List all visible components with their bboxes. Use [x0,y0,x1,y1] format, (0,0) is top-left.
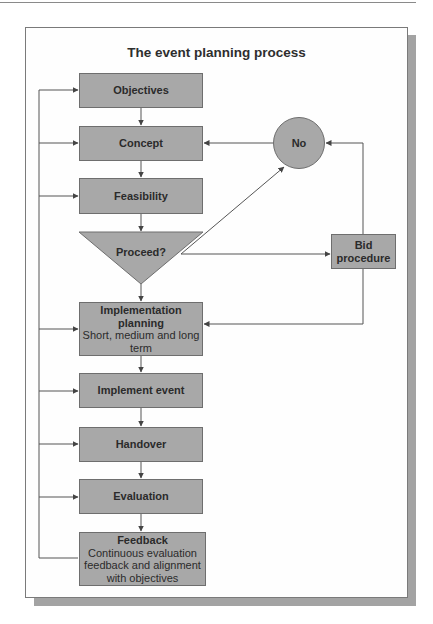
node-objectives: Objectives [79,73,203,108]
node-objectives-label: Objectives [113,84,169,97]
node-feedback-label: Feedback [117,534,168,547]
node-implementation-planning: Implementation planning Short, medium an… [79,302,203,356]
node-feasibility-label: Feasibility [114,190,168,203]
connectors [0,0,433,624]
node-handover: Handover [79,427,203,462]
node-implement-event-label: Implement event [98,384,185,397]
arrow-bid-no [326,143,363,234]
node-concept-label: Concept [119,137,163,150]
loop-feedback-objectives [39,90,78,558]
node-feedback-note: Continuous evaluation feedback and align… [80,547,205,585]
node-feedback: Feedback Continuous evaluation feedback … [79,532,206,586]
node-evaluation-label: Evaluation [113,490,169,503]
node-implementation-label-1: Implementation [100,304,181,317]
node-evaluation: Evaluation [79,479,203,514]
node-concept: Concept [79,126,203,161]
node-implementation-note: Short, medium and long term [80,329,202,354]
node-bid-label-1: Bid [355,239,373,252]
node-implementation-label-2: planning [118,317,164,330]
node-no-label: No [292,137,307,149]
node-bid-label-2: procedure [337,252,391,265]
node-bid-procedure: Bid procedure [331,234,396,269]
node-no: No [273,117,325,169]
node-feasibility: Feasibility [79,178,203,214]
node-proceed-label: Proceed? [79,246,203,258]
arrow-bid-implementation [204,269,363,324]
node-handover-label: Handover [116,438,167,451]
proceed-decision-shape [79,232,203,284]
node-implement-event: Implement event [79,373,203,408]
